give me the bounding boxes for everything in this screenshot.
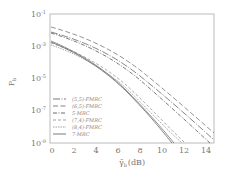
curve-7-mrc-b (51, 41, 174, 143)
x-tick-label: 14 (201, 146, 211, 155)
legend-label: 5-MRC (72, 110, 90, 116)
x-tick-label: 6 (115, 146, 120, 155)
x-tick-label: 2 (71, 146, 76, 155)
y-tick-label: 10-1 (31, 9, 46, 19)
x-tick-label: 10 (157, 146, 167, 155)
y-tick-label: 10-5 (31, 73, 46, 83)
legend-label: (5,5)-FMRC (72, 96, 102, 102)
y-tick-label: 10-3 (31, 41, 46, 51)
x-tick-label: 4 (93, 146, 98, 155)
legend-label: (6,5)-FMRC (72, 103, 102, 109)
x-axis: 0 2 4 6 8 10 12 14 γ̄b(dB) (49, 146, 211, 168)
y-tick-label: 10-9 (31, 138, 46, 148)
y-axis-label: Pb (7, 78, 17, 87)
legend-label: (8,4)-FMRC (72, 124, 102, 130)
x-tick-label: 12 (179, 146, 189, 155)
y-tick-label: 10-7 (31, 105, 46, 115)
x-axis-label: γ̄b(dB) (119, 158, 145, 168)
ber-chart: 10-1 10-3 10-5 10-7 10-9 Pb 0 2 4 6 8 10… (0, 0, 225, 176)
legend-label: (7,4)-FMRC (72, 117, 102, 123)
legend: (5,5)-FMRC (6,5)-FMRC 5-MRC (7,4)-FMRC (… (53, 96, 102, 137)
legend-label: 7-MRC (72, 131, 90, 137)
y-axis: 10-1 10-3 10-5 10-7 10-9 Pb (7, 9, 46, 148)
x-tick-label: 8 (137, 146, 142, 155)
x-tick-label: 0 (49, 146, 54, 155)
